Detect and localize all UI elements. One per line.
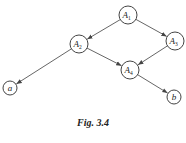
edge-A4-to-b xyxy=(138,75,168,93)
edges xyxy=(16,19,167,93)
node-a: a xyxy=(3,81,17,95)
edge-A2-to-a xyxy=(16,49,71,84)
figure-caption: Fig. 3.4 xyxy=(0,117,186,128)
svg-text:a: a xyxy=(8,83,13,93)
node-A3: A3 xyxy=(166,32,184,50)
edge-A1-to-A3 xyxy=(136,19,167,36)
edge-A2-to-A4 xyxy=(87,48,122,66)
node-A2: A2 xyxy=(70,35,88,53)
node-A4: A4 xyxy=(121,61,139,79)
node-b: b xyxy=(167,90,181,104)
svg-text:b: b xyxy=(172,92,177,102)
edge-A3-to-A4 xyxy=(138,46,167,65)
nodes: A1A2A3A4ab xyxy=(3,6,184,104)
edge-A1-to-A2 xyxy=(87,20,120,40)
node-A1: A1 xyxy=(119,6,137,24)
